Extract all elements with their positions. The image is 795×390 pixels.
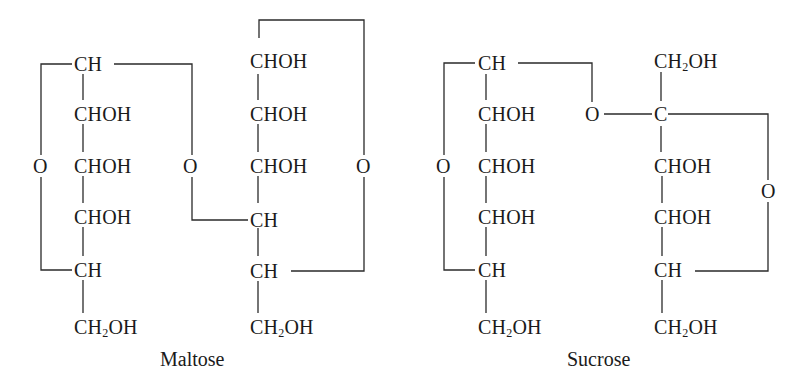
maltose-left-c5: CH [74, 260, 102, 280]
sucrose-left-c5: CH [478, 260, 506, 280]
maltose-glycosidic-bond-lower [192, 177, 248, 220]
sucrose-left-ring-top-bond [444, 63, 475, 155]
maltose-right-c2: CHOH [250, 104, 307, 124]
sucrose-left-c2: CHOH [478, 104, 535, 124]
maltose-left-c1: CH [74, 54, 102, 74]
sucrose-right-c3: CHOH [654, 156, 711, 176]
maltose-right-c4: CH [250, 210, 278, 230]
sucrose-left-ring-oxygen: O [436, 156, 451, 176]
sucrose-right-c1: CH2OH [654, 51, 718, 71]
maltose-left-c3: CHOH [74, 156, 131, 176]
maltose-left-ring-top-bond [41, 64, 72, 155]
maltose-bridge-oxygen: O [183, 156, 198, 176]
maltose-left-c2: CHOH [74, 104, 131, 124]
maltose-left-c6: CH2OH [74, 317, 138, 337]
maltose-right-ring-top-bond [259, 20, 364, 155]
maltose-right-c5: CH [250, 261, 278, 281]
sucrose-right-c4: CHOH [654, 207, 711, 227]
sucrose-left-c1: CH [478, 53, 506, 73]
disaccharide-structures-diagram: CH CHOH CHOH CHOH CH CH2OH O O CHOH CHOH… [0, 0, 795, 390]
maltose-left-ring-oxygen: O [33, 156, 48, 176]
sucrose-left-c6: CH2OH [478, 317, 542, 337]
sucrose-bridge-oxygen: O [585, 104, 600, 124]
maltose-right-ring-bottom-bond [291, 177, 364, 271]
maltose-right-c1: CHOH [250, 51, 307, 71]
maltose-left-c4: CHOH [74, 207, 131, 227]
sucrose-left-c4: CHOH [478, 207, 535, 227]
maltose-caption: Maltose [160, 349, 224, 369]
maltose-right-c6: CH2OH [250, 317, 314, 337]
sucrose-caption: Sucrose [567, 349, 630, 369]
sucrose-left-c3: CHOH [478, 156, 535, 176]
sucrose-right-c5: CH [654, 260, 682, 280]
sucrose-right-c2: C [654, 104, 668, 124]
maltose-right-c3: CHOH [250, 156, 307, 176]
maltose-right-ring-oxygen: O [356, 156, 371, 176]
sucrose-glycosidic-bond-upper [518, 63, 592, 102]
sucrose-left-ring-bottom-bond [444, 177, 475, 270]
sucrose-right-c6: CH2OH [654, 317, 718, 337]
maltose-left-ring-bottom-bond [41, 177, 72, 270]
sucrose-right-ring-oxygen: O [761, 181, 776, 201]
